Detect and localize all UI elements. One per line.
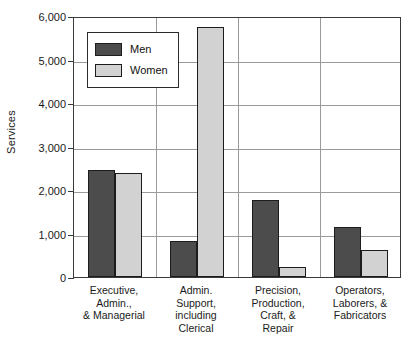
category-label-line: Clerical <box>155 322 237 335</box>
y-tick-label: 4,000 <box>22 99 66 110</box>
x-category-label-4: Operators,Laborers, &Fabricators <box>319 284 401 322</box>
legend-swatch-men-icon <box>95 43 122 56</box>
x-category-label-1: Executive,Admin.,& Managerial <box>73 284 155 322</box>
bar-chart: Services 01,0002,0003,0004,0005,0006,000… <box>0 0 416 342</box>
category-label-line: Support, <box>155 297 237 310</box>
bar-men-1 <box>88 170 115 277</box>
chart-legend: Men Women <box>87 32 179 88</box>
x-category-label-2: Admin.Support,includingClerical <box>155 284 237 334</box>
legend-label-men: Men <box>130 44 151 55</box>
y-tick-label: 6,000 <box>22 12 66 23</box>
category-label-line: Admin. <box>155 284 237 297</box>
bar-men-4 <box>334 227 361 277</box>
y-axis-title: Services <box>5 97 17 167</box>
category-label-line: Fabricators <box>319 309 401 322</box>
category-label-line: Executive, <box>73 284 155 297</box>
bar-women-4 <box>361 250 388 277</box>
bar-women-3 <box>279 267 306 277</box>
y-tick-label: 3,000 <box>22 143 66 154</box>
category-label-line: Precision, <box>237 284 319 297</box>
category-label-line: Repair <box>237 322 319 335</box>
gridline-vertical <box>238 18 239 277</box>
y-tick-label: 2,000 <box>22 186 66 197</box>
bar-men-3 <box>252 200 279 277</box>
category-label-line: Production, <box>237 297 319 310</box>
category-label-line: Admin., <box>73 297 155 310</box>
gridline-horizontal <box>74 149 400 150</box>
y-axis-ticks: 01,0002,0003,0004,0005,0006,000 <box>20 0 66 342</box>
y-tick-label: 5,000 <box>22 56 66 67</box>
category-label-line: Laborers, & <box>319 297 401 310</box>
gridline-vertical <box>320 18 321 277</box>
category-label-line: Operators, <box>319 284 401 297</box>
category-label-line: Craft, & <box>237 309 319 322</box>
x-category-label-3: Precision,Production,Craft, &Repair <box>237 284 319 334</box>
bar-women-1 <box>115 173 142 277</box>
gridline-horizontal <box>74 105 400 106</box>
bar-women-2 <box>197 27 224 277</box>
y-tick-label: 1,000 <box>22 230 66 241</box>
legend-label-women: Women <box>130 65 168 76</box>
category-label-line: & Managerial <box>73 309 155 322</box>
legend-item-women: Women <box>95 60 171 81</box>
bar-men-2 <box>170 241 197 277</box>
legend-swatch-women-icon <box>95 64 122 77</box>
y-tick-label: 0 <box>22 273 66 284</box>
y-tick-mark <box>68 278 74 279</box>
legend-item-men: Men <box>95 39 171 60</box>
category-label-line: including <box>155 309 237 322</box>
